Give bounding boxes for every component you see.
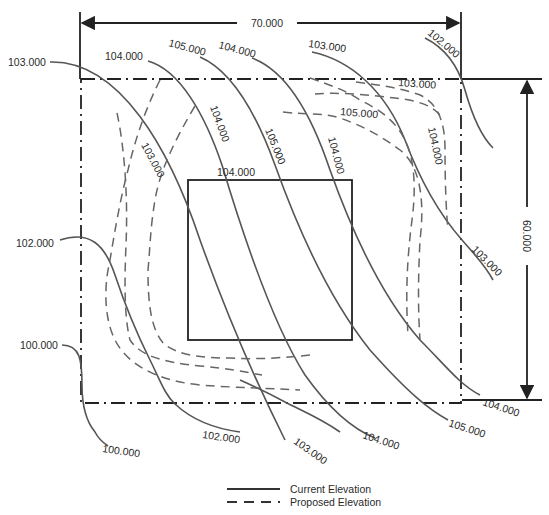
svg-text:102.000: 102.000	[16, 237, 54, 249]
svg-text:104.000: 104.000	[361, 428, 401, 451]
legend: Current Elevation Proposed Elevation	[227, 483, 381, 508]
proposed-contours	[106, 78, 448, 390]
svg-text:104.000: 104.000	[105, 50, 143, 62]
contour-diagram: 70.000 60.000 103.000 104.000 105.000 10…	[0, 0, 549, 515]
svg-text:103.000: 103.000	[398, 76, 437, 91]
legend-proposed-label: Proposed Elevation	[290, 496, 381, 508]
svg-text:103.000: 103.000	[470, 243, 505, 278]
svg-text:104.000: 104.000	[217, 166, 255, 178]
svg-text:103.000: 103.000	[139, 140, 167, 179]
svg-text:104.000: 104.000	[481, 395, 521, 418]
height-dimension-label: 60.000	[521, 220, 533, 252]
building-footprint	[188, 180, 352, 340]
svg-text:103.000: 103.000	[8, 56, 46, 68]
svg-text:105.000: 105.000	[447, 416, 487, 439]
width-dimension-label: 70.000	[251, 17, 283, 29]
svg-text:100.000: 100.000	[102, 442, 141, 459]
svg-text:102.000: 102.000	[426, 26, 463, 60]
svg-text:100.000: 100.000	[20, 339, 58, 351]
current-contours	[50, 38, 493, 446]
svg-text:104.000: 104.000	[217, 38, 257, 59]
svg-text:105.000: 105.000	[167, 36, 207, 57]
legend-current-label: Current Elevation	[290, 483, 371, 495]
contour-labels: 103.000 104.000 105.000 104.000 103.000 …	[8, 26, 521, 466]
svg-text:105.000: 105.000	[340, 105, 379, 120]
svg-text:104.000: 104.000	[426, 126, 446, 166]
svg-text:103.000: 103.000	[292, 435, 330, 467]
